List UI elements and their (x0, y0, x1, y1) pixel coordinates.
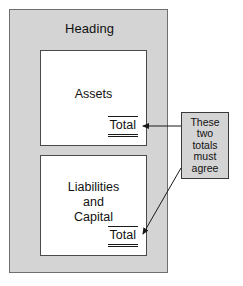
liabilities-capital-section: Liabilities and Capital Total (40, 155, 147, 256)
callout-note: These two totals must agree (181, 112, 229, 179)
liabilities-capital-section-title: Liabilities and Capital (41, 180, 146, 225)
liabilities-capital-total-label: Total (108, 226, 138, 247)
assets-section-title: Assets (41, 87, 146, 102)
statement-panel: Heading Assets Total Liabilities and Cap… (9, 9, 168, 273)
balance-sheet-diagram: Heading Assets Total Liabilities and Cap… (0, 0, 243, 286)
callout-note-text: These two totals must agree (190, 117, 219, 175)
assets-section: Assets Total (40, 50, 147, 146)
statement-heading: Heading (10, 21, 169, 36)
assets-total-label: Total (108, 116, 138, 137)
